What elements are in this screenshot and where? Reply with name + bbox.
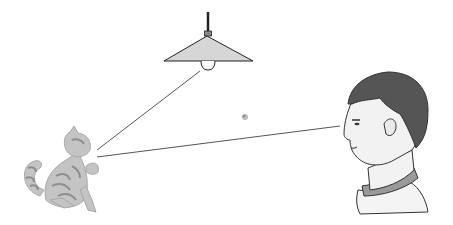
ray-cat-to-eye (97, 126, 340, 157)
diagram-canvas (0, 0, 453, 225)
ray-lamp-to-cat (97, 71, 200, 150)
person-icon (344, 72, 428, 214)
cat-icon (24, 126, 98, 212)
lamp-icon (164, 12, 253, 70)
particle-icon (242, 114, 248, 120)
